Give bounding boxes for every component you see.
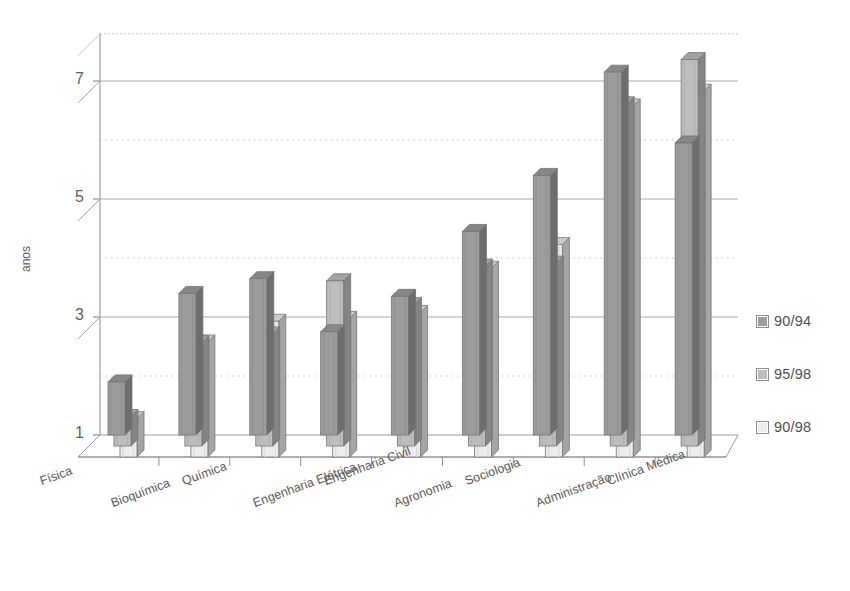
bar-7-0[interactable] (604, 65, 628, 435)
bar-1-0[interactable] (179, 286, 203, 435)
plot-top-left-edge (78, 34, 100, 56)
legend-swatch-9094-icon (756, 315, 769, 328)
y-tick-label-1: 1 (60, 424, 84, 442)
bar-8-0[interactable] (675, 136, 699, 435)
y-axis-title: anos (19, 229, 33, 289)
bar-0-0[interactable] (108, 375, 132, 435)
legend-label-1: 95/98 (774, 366, 811, 382)
legend-swatch-9098-icon (756, 421, 769, 434)
bar-4-0[interactable] (392, 289, 416, 435)
legend-item-2[interactable]: 90/98 (756, 418, 848, 436)
chart-plot-area: anos 1357FísicaBioquímicaQuímicaEngenhar… (0, 0, 850, 591)
bar-3-0[interactable] (321, 325, 345, 435)
chart-page: anos 1357FísicaBioquímicaQuímicaEngenhar… (0, 0, 850, 591)
legend-label-2: 90/98 (774, 419, 811, 435)
y-tick-label-5: 5 (60, 188, 84, 206)
legend-label-0: 90/94 (774, 313, 811, 329)
chart-legend: 90/94 95/98 90/98 (756, 312, 848, 471)
legend-item-1[interactable]: 95/98 (756, 365, 848, 383)
legend-swatch-9598-icon (756, 368, 769, 381)
bar-5-0[interactable] (462, 224, 486, 435)
bar-6-0[interactable] (533, 168, 557, 435)
legend-item-0[interactable]: 90/94 (756, 312, 848, 330)
y-tick-label-3: 3 (60, 306, 84, 324)
bar-2-0[interactable] (250, 272, 274, 435)
y-tick-label-7: 7 (60, 70, 84, 88)
